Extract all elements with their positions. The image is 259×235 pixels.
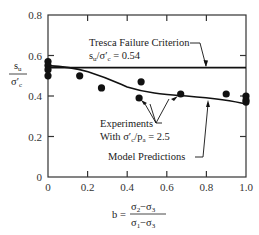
chart-canvas: 0.8 0.6 0.4 0.2 0 0 0.2 0.4 0.6 0.8 1.0 … — [0, 0, 259, 235]
svg-text:σ1−σ3: σ1−σ3 — [131, 217, 156, 230]
y-tick-label: 0.2 — [28, 131, 42, 143]
svg-text:With σ′c/pa = 2.5: With σ′c/pa = 2.5 — [100, 131, 170, 144]
svg-text:b =: b = — [112, 209, 126, 220]
x-tick-label: 0.4 — [120, 181, 134, 193]
tresca-annotation: Tresca Failure Criterion su/σ′c = 0.54 — [89, 37, 208, 67]
svg-text:Model Predictions: Model Predictions — [108, 151, 185, 162]
y-tick-label: 0 — [37, 171, 43, 183]
y-tick-label: 0.8 — [28, 9, 42, 21]
svg-text:σ2−σ3: σ2−σ3 — [131, 201, 156, 214]
x-axis-label: b = σ2−σ3 σ1−σ3 — [112, 201, 166, 230]
y-tick-label: 0.4 — [28, 90, 42, 102]
svg-text:su: su — [14, 60, 22, 73]
experiments-annotation: Experiments With σ′c/pa = 2.5 — [100, 96, 178, 144]
y-tick-label: 0.6 — [28, 50, 42, 62]
y-axis-label: su σ′c — [9, 60, 27, 89]
x-tick-label: 1.0 — [239, 181, 253, 193]
svg-text:Experiments: Experiments — [100, 118, 153, 129]
x-tick-label: 0.8 — [200, 181, 214, 193]
x-tick-label: 0.2 — [81, 181, 95, 193]
svg-text:su/σ′c = 0.54: su/σ′c = 0.54 — [89, 50, 141, 63]
svg-text:Tresca Failure Criterion: Tresca Failure Criterion — [89, 37, 190, 48]
model-predictions-curve — [48, 66, 246, 105]
x-tick-label: 0 — [45, 181, 51, 193]
x-tick-label: 0.6 — [160, 181, 174, 193]
svg-text:σ′c: σ′c — [11, 76, 22, 89]
